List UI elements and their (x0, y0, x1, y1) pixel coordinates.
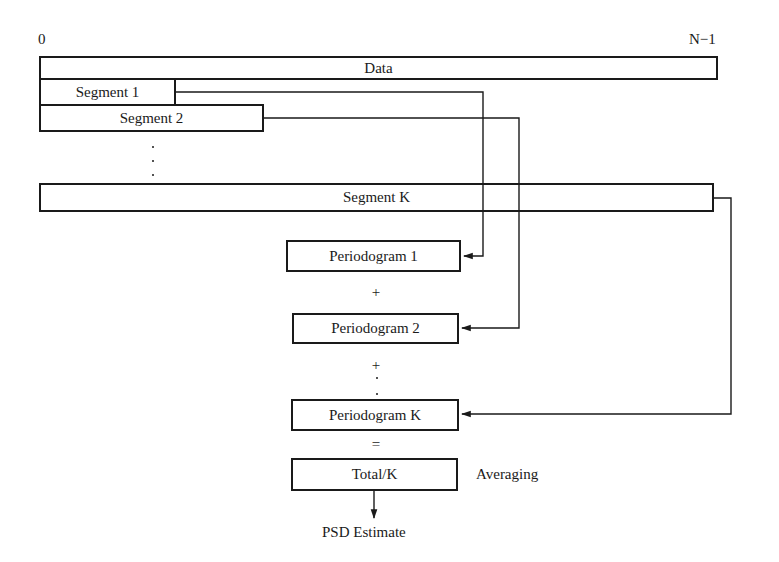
operator-equals: = (366, 436, 386, 453)
annotation-psd-estimate: PSD Estimate (322, 524, 406, 541)
axis-start-label: 0 (38, 31, 46, 48)
operator-plus-2: + (366, 357, 386, 374)
box-label-segment-2: Segment 2 (40, 105, 263, 131)
box-label-periodogram-k: Periodogram K (292, 400, 458, 430)
box-label-data: Data (40, 57, 717, 79)
segments-ellipsis-icon (151, 146, 155, 176)
periodograms-ellipsis-icon (375, 377, 379, 395)
box-label-segment-1: Segment 1 (40, 79, 175, 105)
box-label-periodogram-2: Periodogram 2 (293, 314, 458, 343)
box-label-total-k: Total/K (292, 459, 457, 490)
axis-end-label: N−1 (689, 31, 716, 48)
operator-plus-1: + (366, 284, 386, 301)
connector-segmentk-to-periodogramk (462, 198, 731, 414)
connector-segment2-to-periodogram2 (263, 118, 519, 328)
box-label-periodogram-1: Periodogram 1 (287, 241, 460, 271)
box-label-segment-k: Segment K (40, 184, 713, 211)
welch-psd-block-diagram: 0 N−1 Data Segment 1 Segment 2 Segment K… (0, 0, 779, 562)
annotation-averaging: Averaging (476, 466, 538, 483)
